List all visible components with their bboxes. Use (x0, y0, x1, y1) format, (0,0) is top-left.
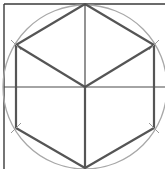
isometric-cube-diagram (0, 0, 165, 169)
cube-edge-right (85, 45, 154, 87)
cube-edge-left (16, 45, 85, 87)
